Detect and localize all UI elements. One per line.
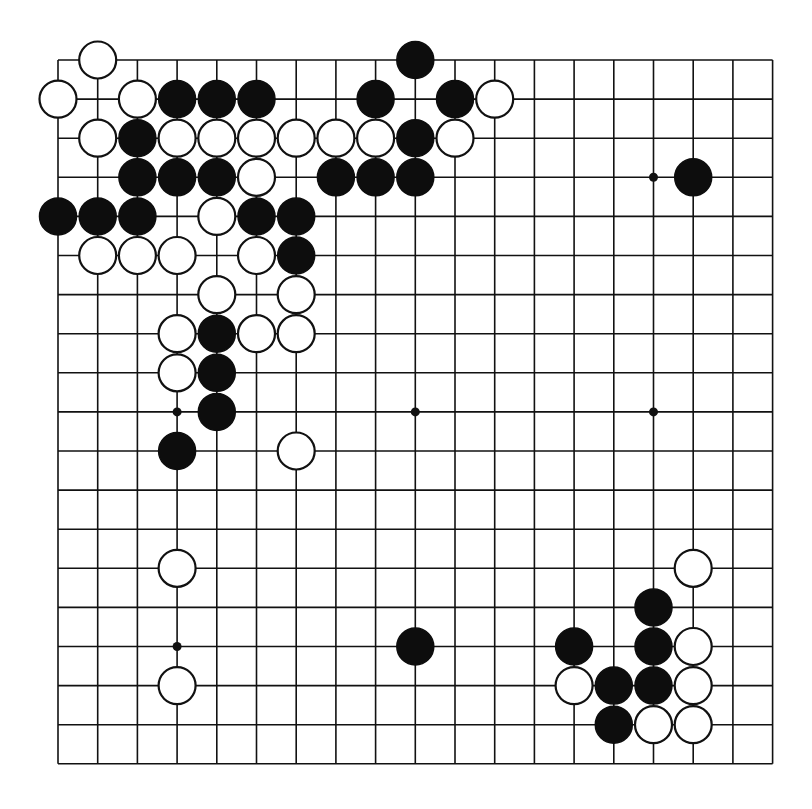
black-stone[interactable]: [198, 159, 235, 196]
star-point-icon: [649, 173, 658, 182]
black-stone[interactable]: [595, 706, 632, 743]
black-stone[interactable]: [397, 159, 434, 196]
black-stone[interactable]: [397, 120, 434, 157]
white-stone[interactable]: [278, 315, 315, 352]
black-stone[interactable]: [198, 354, 235, 391]
black-stone[interactable]: [238, 198, 275, 235]
star-point-icon: [411, 407, 420, 416]
white-stone[interactable]: [159, 550, 196, 587]
white-stone[interactable]: [159, 120, 196, 157]
white-stone[interactable]: [79, 42, 116, 79]
white-stone[interactable]: [198, 276, 235, 313]
white-stone[interactable]: [198, 120, 235, 157]
white-stone[interactable]: [40, 81, 77, 118]
white-stone[interactable]: [278, 433, 315, 470]
white-stone[interactable]: [198, 198, 235, 235]
white-stone[interactable]: [675, 628, 712, 665]
white-stone[interactable]: [238, 315, 275, 352]
white-stone[interactable]: [437, 120, 474, 157]
black-stone[interactable]: [198, 315, 235, 352]
white-stone[interactable]: [357, 120, 394, 157]
white-stone[interactable]: [159, 315, 196, 352]
white-stone[interactable]: [238, 237, 275, 274]
black-stone[interactable]: [159, 81, 196, 118]
star-point-icon: [649, 407, 658, 416]
black-stone[interactable]: [119, 159, 156, 196]
black-stone[interactable]: [278, 237, 315, 274]
black-stone[interactable]: [635, 589, 672, 626]
black-stone[interactable]: [198, 393, 235, 430]
black-stone[interactable]: [317, 159, 354, 196]
black-stone[interactable]: [397, 628, 434, 665]
black-stone[interactable]: [397, 42, 434, 79]
black-stone[interactable]: [198, 81, 235, 118]
white-stone[interactable]: [476, 81, 513, 118]
star-point-icon: [173, 642, 182, 651]
black-stone[interactable]: [437, 81, 474, 118]
black-stone[interactable]: [675, 159, 712, 196]
white-stone[interactable]: [119, 81, 156, 118]
white-stone[interactable]: [159, 354, 196, 391]
go-board-canvas[interactable]: [0, 0, 812, 809]
black-stone[interactable]: [278, 198, 315, 235]
white-stone[interactable]: [119, 237, 156, 274]
black-stone[interactable]: [119, 120, 156, 157]
white-stone[interactable]: [278, 276, 315, 313]
black-stone[interactable]: [635, 628, 672, 665]
white-stone[interactable]: [675, 667, 712, 704]
white-stone[interactable]: [278, 120, 315, 157]
black-stone[interactable]: [595, 667, 632, 704]
black-stone[interactable]: [556, 628, 593, 665]
white-stone[interactable]: [675, 550, 712, 587]
white-stone[interactable]: [317, 120, 354, 157]
black-stone[interactable]: [159, 433, 196, 470]
white-stone[interactable]: [556, 667, 593, 704]
white-stone[interactable]: [635, 706, 672, 743]
black-stone[interactable]: [238, 81, 275, 118]
white-stone[interactable]: [79, 120, 116, 157]
white-stone[interactable]: [159, 667, 196, 704]
black-stone[interactable]: [357, 159, 394, 196]
white-stone[interactable]: [79, 237, 116, 274]
white-stone[interactable]: [675, 706, 712, 743]
star-point-icon: [173, 407, 182, 416]
black-stone[interactable]: [79, 198, 116, 235]
white-stone[interactable]: [159, 237, 196, 274]
white-stone[interactable]: [238, 120, 275, 157]
black-stone[interactable]: [119, 198, 156, 235]
white-stone[interactable]: [238, 159, 275, 196]
black-stone[interactable]: [40, 198, 77, 235]
black-stone[interactable]: [159, 159, 196, 196]
go-board[interactable]: [0, 0, 812, 809]
black-stone[interactable]: [357, 81, 394, 118]
black-stone[interactable]: [635, 667, 672, 704]
